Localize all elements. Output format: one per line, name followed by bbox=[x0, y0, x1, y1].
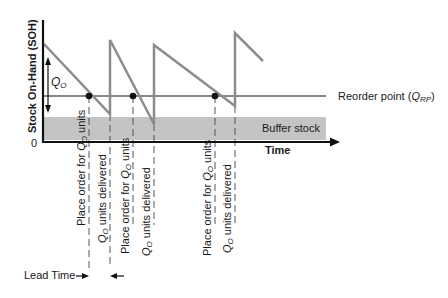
lead-time-label: Lead Time bbox=[24, 269, 75, 281]
annotation-delivered-3: QO units delivered bbox=[221, 164, 235, 253]
annotation-delivered-2: QO units delivered bbox=[140, 167, 154, 256]
reorder-dot-3 bbox=[212, 93, 219, 100]
inventory-diagram: Buffer stock Reorder point (QRP) QO 0 Ti… bbox=[0, 0, 448, 298]
annotation-place-order-3: Place order for QO units bbox=[201, 139, 215, 256]
qo-label: QO bbox=[51, 75, 67, 90]
x-axis-label: Time bbox=[265, 144, 290, 156]
lead-time-arrows bbox=[76, 273, 124, 279]
annotation-place-order-1: Place order for QO units bbox=[75, 109, 89, 226]
annotation-place-order-2: Place order for QO units bbox=[119, 137, 133, 254]
reorder-dot-1 bbox=[86, 93, 93, 100]
y-axis-label: Stock On-Hand (SOH) bbox=[26, 19, 38, 133]
reorder-dot-2 bbox=[130, 93, 137, 100]
reorder-point-label: Reorder point (QRP) bbox=[338, 90, 435, 104]
x-axis-arrowhead-icon bbox=[330, 138, 340, 147]
y-zero-label: 0 bbox=[31, 137, 37, 149]
buffer-stock-label: Buffer stock bbox=[262, 122, 320, 134]
annotation-delivered-1: QO units delivered bbox=[96, 154, 110, 243]
